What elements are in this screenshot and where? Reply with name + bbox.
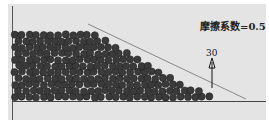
angle-label: 30 (206, 48, 217, 58)
friction-coefficient-label: 摩擦系数=0.5 (200, 18, 266, 33)
ground-line (12, 101, 266, 102)
